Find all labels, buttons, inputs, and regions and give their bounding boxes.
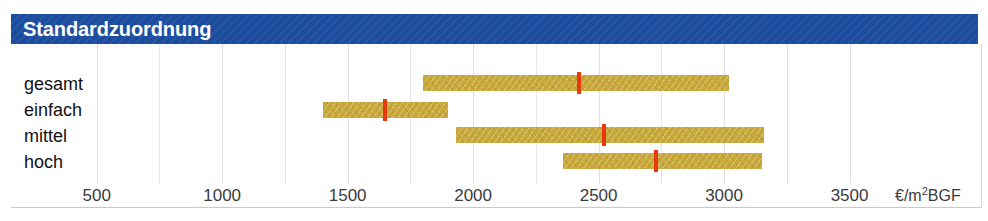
plot-area: gesamteinfachmittelhoch 5001000150020002… [11,44,982,208]
axis-unit-suffix: BGF [928,187,961,204]
gridline [850,44,851,184]
axis-tick-label: 3500 [831,186,869,206]
axis-tick-label: 500 [83,186,111,206]
median-marker-einfach [383,99,387,121]
axis-tick-label: 1500 [329,186,367,206]
category-label-mittel: mittel [24,126,67,146]
gridline [285,44,286,184]
median-marker-mittel [602,124,606,146]
axis-tick-label: 2000 [454,186,492,206]
median-marker-gesamt [577,72,581,94]
chart-title-bar: Standardzuordnung [11,14,978,44]
category-label-einfach: einfach [24,100,82,120]
gridline [159,44,160,184]
axis-tick-label: 2500 [580,186,618,206]
gridline [787,44,788,184]
axis-tick-label: 3000 [705,186,743,206]
chart-title: Standardzuordnung [23,17,211,41]
axis-unit-base: €/m [895,187,922,204]
gridline [473,44,474,184]
chart-figure: Standardzuordnung gesamteinfachmittelhoc… [0,0,988,221]
median-marker-hoch [654,150,658,172]
category-label-hoch: hoch [24,152,63,172]
gridline [222,44,223,184]
category-label-gesamt: gesamt [24,74,83,94]
axis-tick-label: 1000 [203,186,241,206]
gridline [97,44,98,184]
range-bar-hoch [563,153,761,169]
gridline [536,44,537,184]
range-bar-mittel [456,127,765,143]
axis-unit-label: €/m2BGF [895,186,961,206]
